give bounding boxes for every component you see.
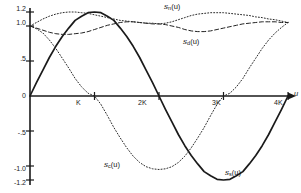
curve-label-dn: sd(u) [183,37,199,46]
curve-label-cn: sc(u) [104,160,120,169]
y-tick-label-2: 1.0 [2,19,26,26]
y-tick-label-3: .5 [2,55,26,62]
curve-label-cn-arg: (u) [111,160,120,169]
curve-label-ss-arg: (u) [232,168,241,177]
elliptic-function-plot: 1.2 1.0 .5 0 -.5 -1.0 -1.2 K 2K 3K 4K u … [0,0,301,193]
y-tick-label-1: 1.2 [2,5,26,12]
curve-s-n-u- [30,12,288,26]
plot-canvas [0,0,301,193]
x-tick-label-2k: 2K [138,99,147,106]
curve-label-dn-arg: (u) [190,37,199,46]
x-tick-label-4k: 4K [274,99,283,106]
y-tick-label-4: 0 [2,92,26,99]
curve-label-sn: sn(u) [164,2,180,11]
y-tick-label-6: -1.0 [2,165,26,172]
x-tick-label-k: K [76,99,81,106]
y-tick-label-5: -.5 [2,129,26,136]
curve-label-ss: ss(u) [225,168,241,177]
x-axis-label: u [294,89,298,98]
y-tick-label-7: -1.2 [2,179,26,186]
curve-label-sn-arg: (u) [171,2,180,11]
x-tick-label-3k: 3K [212,99,221,106]
